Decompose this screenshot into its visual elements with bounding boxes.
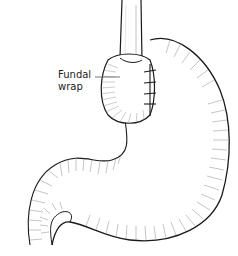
stomach-drawing: [0, 0, 238, 256]
fundal-wrap: [100, 54, 155, 124]
label-fundal: Fundal: [58, 69, 91, 81]
esophagus: [120, 0, 142, 60]
label-wrap: wrap: [58, 81, 83, 93]
